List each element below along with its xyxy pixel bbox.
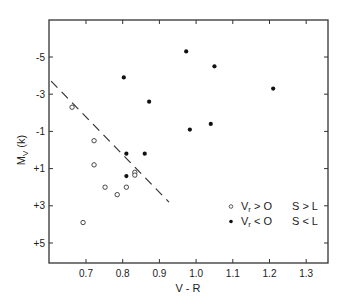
- dashed-boundary-line: [51, 81, 169, 202]
- y-tick-label: +1: [34, 163, 46, 174]
- legend-filled-marker: [229, 220, 233, 224]
- x-axis-title: V - R: [175, 282, 200, 294]
- x-tick-label: 0.8: [116, 268, 130, 279]
- dashed-line: [51, 81, 169, 202]
- filled-circle-point: [124, 174, 128, 178]
- filled-circle-point: [271, 87, 275, 91]
- x-tick-label: 0.7: [79, 268, 93, 279]
- x-tick-label: 1.3: [299, 268, 313, 279]
- open-circle-point: [133, 173, 137, 177]
- y-tick-label: +3: [34, 200, 46, 211]
- y-tick-label: -3: [36, 89, 45, 100]
- legend-condition: S > L: [292, 200, 318, 212]
- filled-circle-point: [147, 100, 151, 104]
- x-tick-label: 1.1: [226, 268, 240, 279]
- open-circle-point: [103, 185, 107, 189]
- data-points: [70, 49, 275, 224]
- x-axis-ticks: 0.70.80.91.01.11.21.3: [79, 20, 314, 279]
- filled-circle-point: [188, 127, 192, 131]
- filled-circle-point: [143, 152, 147, 156]
- x-tick-label: 1.0: [189, 268, 203, 279]
- filled-circle-point: [209, 122, 213, 126]
- filled-circle-point: [184, 49, 188, 53]
- open-circle-point: [92, 139, 96, 143]
- y-tick-label: -5: [36, 52, 45, 63]
- open-circle-point: [124, 185, 128, 189]
- legend-condition: S < L: [292, 215, 318, 227]
- legend: Vr > OS > LVr < OS < L: [229, 200, 318, 229]
- legend-open-marker: [229, 205, 233, 209]
- open-circle-point: [70, 105, 74, 109]
- x-tick-label: 1.2: [263, 268, 277, 279]
- plot-frame: [49, 20, 328, 263]
- filled-circle-point: [212, 64, 216, 68]
- open-circle-point: [81, 220, 85, 224]
- open-circle-point: [115, 192, 119, 196]
- y-tick-label: +5: [34, 238, 46, 249]
- scatter-chart: 0.70.80.91.01.11.21.3 -5-3-1+1+3+5 Vr > …: [0, 0, 345, 307]
- open-circle-point: [92, 163, 96, 167]
- x-tick-label: 0.9: [152, 268, 166, 279]
- y-axis-ticks: -5-3-1+1+3+5: [34, 52, 328, 249]
- y-tick-label: -1: [36, 126, 45, 137]
- legend-label: Vr > O: [241, 200, 273, 214]
- y-axis-title: MV (k): [15, 135, 30, 165]
- filled-circle-point: [124, 152, 128, 156]
- filled-circle-point: [122, 75, 126, 79]
- legend-label: Vr < O: [241, 215, 273, 229]
